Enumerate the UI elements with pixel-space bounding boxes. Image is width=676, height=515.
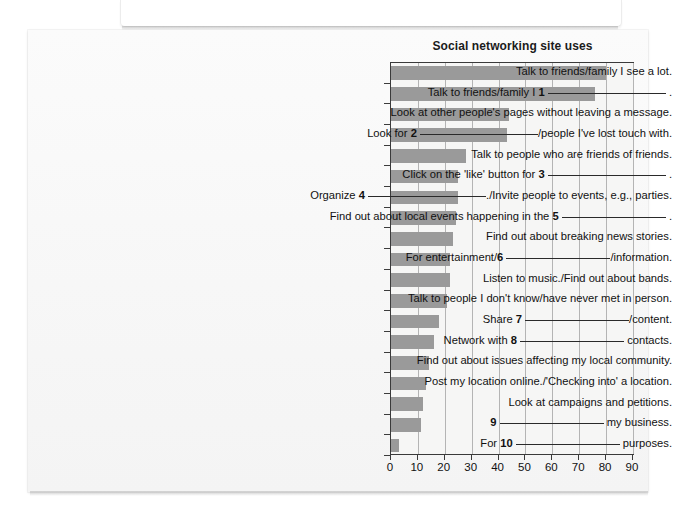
y-axis-tick bbox=[384, 414, 390, 415]
x-axis-tick-label: 0 bbox=[378, 461, 402, 473]
y-axis-tick bbox=[384, 124, 390, 125]
x-axis-tick bbox=[632, 455, 633, 460]
y-axis-tick bbox=[384, 290, 390, 291]
x-axis-tick-label: 40 bbox=[486, 461, 510, 473]
chart-title: Social networking site uses bbox=[390, 39, 635, 53]
x-axis-tick bbox=[524, 455, 525, 460]
bar-chart-figure: Social networking site uses Talk to frie… bbox=[0, 0, 676, 515]
y-axis-tick bbox=[384, 227, 390, 228]
category-label: For 10 purposes. bbox=[294, 437, 676, 449]
y-axis-tick bbox=[384, 103, 390, 104]
category-label: Click on the 'like' button for 3 . bbox=[294, 168, 676, 180]
x-axis-tick bbox=[417, 455, 418, 460]
x-axis-tick bbox=[390, 455, 391, 460]
y-axis-tick bbox=[384, 83, 390, 84]
x-axis-tick bbox=[605, 455, 606, 460]
category-label: Organize 4 ./Invite people to events, e.… bbox=[294, 189, 676, 201]
category-label: Look at other people's pages without lea… bbox=[294, 106, 676, 118]
y-axis-tick bbox=[384, 165, 390, 166]
x-axis-tick bbox=[444, 455, 445, 460]
x-axis-tick bbox=[578, 455, 579, 460]
x-axis-tick-label: 50 bbox=[512, 461, 536, 473]
y-axis-tick bbox=[384, 186, 390, 187]
x-axis-tick-label: 60 bbox=[539, 461, 563, 473]
category-label: Look at campaigns and petitions. bbox=[294, 396, 676, 408]
y-axis-tick bbox=[384, 372, 390, 373]
category-label: Talk to people I don't know/have never m… bbox=[294, 292, 676, 304]
category-label: Share 7 /content. bbox=[294, 313, 676, 325]
category-label: Listen to music./Find out about bands. bbox=[294, 272, 676, 284]
x-axis-tick-label: 30 bbox=[459, 461, 483, 473]
category-label: For entertainment/6 /information. bbox=[294, 251, 676, 263]
x-axis-tick-label: 80 bbox=[593, 461, 617, 473]
y-axis-tick bbox=[384, 145, 390, 146]
y-axis-tick bbox=[384, 310, 390, 311]
category-label: Find out about breaking news stories. bbox=[294, 230, 676, 242]
category-label: Find out about issues affecting my local… bbox=[294, 354, 676, 366]
category-label: Find out about local events happening in… bbox=[294, 210, 676, 222]
category-label: Talk to people who are friends of friend… bbox=[294, 148, 676, 160]
y-axis-tick bbox=[384, 352, 390, 353]
category-label: Talk to friends/family I 1 . bbox=[294, 86, 676, 98]
x-axis-tick-label: 20 bbox=[432, 461, 456, 473]
category-label: Post my location online./'Checking into'… bbox=[294, 375, 676, 387]
x-axis-tick-label: 10 bbox=[405, 461, 429, 473]
category-label: Look for 2 /people I've lost touch with. bbox=[294, 127, 676, 139]
x-axis-tick bbox=[498, 455, 499, 460]
category-label: Talk to friends/family I see a lot. bbox=[294, 65, 676, 77]
y-axis-tick bbox=[384, 207, 390, 208]
y-axis-tick bbox=[384, 434, 390, 435]
y-axis-tick bbox=[384, 269, 390, 270]
y-axis-tick bbox=[384, 331, 390, 332]
x-axis-tick bbox=[471, 455, 472, 460]
y-axis-tick bbox=[384, 248, 390, 249]
x-axis-tick-label: 90 bbox=[620, 461, 644, 473]
category-label: 9 my business. bbox=[294, 416, 676, 428]
x-axis-tick-label: 70 bbox=[566, 461, 590, 473]
category-label: Network with 8 contacts. bbox=[294, 334, 676, 346]
y-axis-tick bbox=[384, 393, 390, 394]
x-axis-tick bbox=[551, 455, 552, 460]
